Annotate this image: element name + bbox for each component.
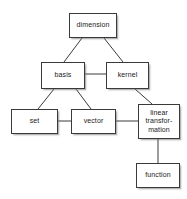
- node-set[interactable]: set: [11, 109, 58, 134]
- node-label-linear-transformation: linear transfor- mation: [145, 109, 174, 135]
- node-basis[interactable]: basis: [41, 62, 85, 89]
- concept-map-diagram: dimensionbasiskernelsetvectorlinear tran…: [0, 0, 187, 199]
- edge-kernel-to-linear-transformation: [135, 89, 152, 104]
- edge-basis-to-vector: [76, 89, 91, 109]
- node-label-kernel: kernel: [117, 71, 139, 80]
- node-function[interactable]: function: [136, 163, 180, 188]
- node-label-basis: basis: [54, 71, 73, 80]
- node-label-set: set: [29, 117, 41, 126]
- edge-dimension-to-kernel: [104, 38, 123, 62]
- edge-basis-to-set: [38, 89, 54, 109]
- node-label-function: function: [144, 171, 171, 180]
- edge-dimension-to-basis: [64, 38, 82, 62]
- node-vector[interactable]: vector: [71, 109, 116, 134]
- node-label-vector: vector: [83, 117, 105, 126]
- node-label-dimension: dimension: [76, 21, 111, 30]
- node-linear-transformation[interactable]: linear transfor- mation: [138, 104, 180, 139]
- node-kernel[interactable]: kernel: [106, 62, 149, 89]
- node-dimension[interactable]: dimension: [69, 13, 117, 38]
